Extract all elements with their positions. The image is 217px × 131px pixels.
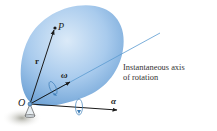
angular-acceleration-vector	[30, 104, 117, 110]
label-origin: O	[18, 98, 25, 108]
pivot-base	[25, 115, 35, 118]
label-position-vector-r: r	[35, 57, 39, 66]
point-p-dot	[53, 26, 56, 29]
label-angular-acceleration: α	[111, 97, 116, 106]
instantaneous-axis-caption: Instantaneous axis of rotation	[123, 63, 185, 83]
label-angular-velocity: ω	[61, 71, 68, 80]
alpha-rotation-arrow-icon	[77, 110, 81, 114]
caption-line-1: Instantaneous axis	[123, 63, 185, 73]
caption-line-2: of rotation	[123, 73, 185, 83]
label-point-p: P	[58, 22, 64, 32]
origin-pivot-icon	[28, 102, 32, 106]
ground-shadow	[2, 108, 42, 128]
